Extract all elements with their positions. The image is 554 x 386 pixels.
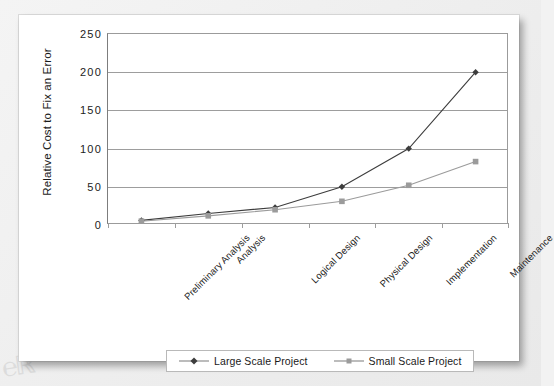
legend-item-small-scale-project[interactable]: Small Scale Project [334, 355, 462, 367]
x-axis-category-labels: Preliminary AnalysisAnalysisLogical Desi… [107, 224, 508, 344]
series-layer [108, 34, 509, 225]
data-point-square-icon [205, 213, 211, 219]
legend-item-large-scale-project[interactable]: Large Scale Project [179, 355, 308, 367]
plot-area: 050100150200250 [107, 33, 508, 224]
y-axis-tick-label: 250 [80, 28, 102, 40]
y-axis-tick-label: 200 [80, 66, 102, 78]
legend-swatch-diamond-icon [179, 356, 209, 366]
data-point-square-icon [339, 199, 345, 205]
y-axis-tick-label: 0 [95, 219, 102, 231]
x-axis-category-label: Physical Design [377, 232, 434, 289]
data-point-square-icon [406, 182, 412, 188]
series-line [141, 162, 475, 222]
x-axis-category-label: Logical Design [309, 232, 362, 285]
y-axis-tick-label: 50 [87, 181, 102, 193]
x-axis-category-label: Implementation [443, 232, 498, 287]
legend-label: Large Scale Project [214, 355, 308, 367]
y-axis-tick-label: 150 [80, 104, 102, 116]
y-axis-tick-label: 100 [80, 143, 102, 155]
y-axis-title: Relative Cost to Fix an Error [41, 27, 59, 217]
chart-legend: Large Scale Project Small Scale Project [166, 350, 474, 372]
line-chart: Relative Cost to Fix an Error 0501001502… [19, 15, 519, 361]
x-axis-category-label: Preliminary Analysis [182, 232, 252, 302]
legend-label: Small Scale Project [369, 355, 462, 367]
legend-swatch-square-icon [334, 356, 364, 366]
series-line [141, 72, 475, 220]
data-point-square-icon [272, 207, 278, 213]
data-point-square-icon [473, 159, 479, 165]
chart-card: Relative Cost to Fix an Error 0501001502… [19, 15, 519, 361]
data-point-diamond-icon [339, 184, 345, 190]
